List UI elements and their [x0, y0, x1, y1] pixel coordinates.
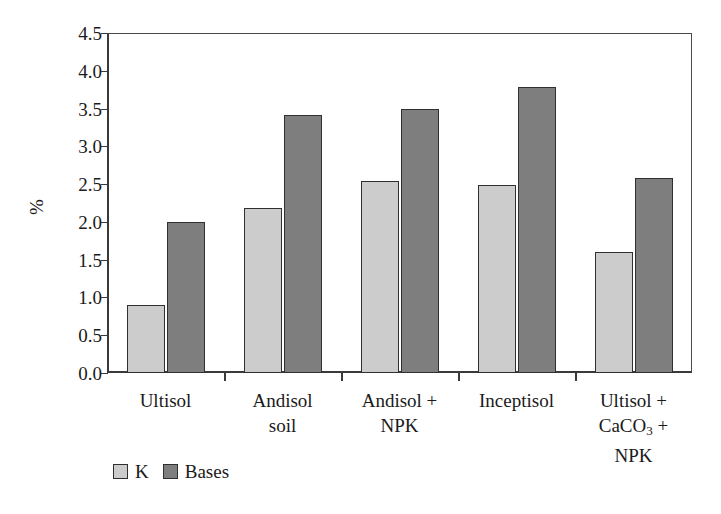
- x-axis-tick-label: Ultisol: [107, 388, 224, 413]
- bar-bases-2: [284, 115, 322, 373]
- plot-area: [107, 33, 692, 373]
- x-axis-tick-label-line: Andisol: [224, 388, 341, 413]
- x-axis-tick-mark: [341, 373, 343, 381]
- bar-k-3: [361, 181, 399, 373]
- y-axis-tick-mark: [101, 71, 108, 72]
- bar-k-2: [244, 208, 282, 373]
- y-axis-tick-mark: [101, 33, 108, 34]
- x-axis-tick-mark: [458, 373, 460, 381]
- y-axis-tick-mark: [101, 109, 108, 110]
- y-axis-tick-label: 1.0: [52, 288, 102, 307]
- y-axis-tick-label: 3.0: [52, 137, 102, 156]
- bar-chart: % 0.00.51.01.52.02.53.03.54.04.5 KBases …: [0, 0, 721, 514]
- x-axis-tick-label-line: Ultisol: [107, 388, 224, 413]
- bar-group: [341, 33, 458, 373]
- bar-bases-1: [167, 222, 205, 373]
- x-axis-tick-label-line: NPK: [575, 443, 692, 468]
- x-axis-tick-label-line: Ultisol +: [575, 388, 692, 413]
- y-axis-tick-mark: [101, 184, 108, 185]
- y-axis-tick-label: 4.0: [52, 61, 102, 80]
- legend-item-label: Bases: [185, 462, 229, 481]
- bar-bases-3: [401, 109, 439, 373]
- bar-k-1: [127, 305, 165, 373]
- x-axis-tick-label-line: CaCO3 +: [575, 413, 692, 443]
- y-axis-tick-label: 3.5: [52, 99, 102, 118]
- y-axis-tick-mark: [101, 335, 108, 336]
- x-axis-tick-label: Inceptisol: [458, 388, 575, 413]
- y-axis-tick-label: 4.5: [52, 24, 102, 43]
- x-axis-tick-label: Andisolsoil: [224, 388, 341, 438]
- y-axis-tick-mark: [101, 260, 108, 261]
- x-axis-tick-mark: [224, 373, 226, 381]
- x-axis-tick-label: Ultisol +CaCO3 +NPK: [575, 388, 692, 468]
- y-axis-title: %: [26, 192, 48, 222]
- y-axis-tick-mark: [101, 222, 108, 223]
- x-axis-tick-label-line: Andisol +: [341, 388, 458, 413]
- dark-gray-swatch: [163, 464, 178, 479]
- legend-item-k[interactable]: K: [113, 462, 149, 481]
- x-axis-tick-label-line: NPK: [341, 413, 458, 438]
- bar-k-5: [595, 252, 633, 373]
- bar-group: [107, 33, 224, 373]
- y-axis-tick-mark: [101, 297, 108, 298]
- y-axis-tick-label: 2.0: [52, 212, 102, 231]
- bar-bases-5: [635, 178, 673, 373]
- bar-k-4: [478, 185, 516, 373]
- y-axis-tick-labels: 0.00.51.01.52.02.53.03.54.04.5: [52, 33, 102, 373]
- legend-item-bases[interactable]: Bases: [163, 462, 229, 481]
- x-axis-tick-label-line: soil: [224, 413, 341, 438]
- y-axis-tick-label: 1.5: [52, 250, 102, 269]
- bar-group: [224, 33, 341, 373]
- legend-item-label: K: [135, 462, 149, 481]
- y-axis-tick-label: 2.5: [52, 175, 102, 194]
- x-axis-tick-label: Andisol +NPK: [341, 388, 458, 438]
- y-axis-tick-mark: [101, 373, 108, 374]
- bar-group: [575, 33, 692, 373]
- y-axis-tick-mark: [101, 146, 108, 147]
- x-axis-tick-label-line: Inceptisol: [458, 388, 575, 413]
- y-axis-tick-label: 0.0: [52, 364, 102, 383]
- chart-legend: KBases: [113, 462, 229, 481]
- bar-group: [458, 33, 575, 373]
- y-axis-tick-label: 0.5: [52, 326, 102, 345]
- light-gray-swatch: [113, 464, 128, 479]
- bar-bases-4: [518, 87, 556, 373]
- x-axis-tick-mark: [575, 373, 577, 381]
